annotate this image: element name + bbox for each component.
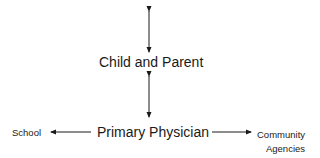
node-child-and-parent: Child and Parent [99, 55, 203, 69]
node-primary-physician: Primary Physician [97, 125, 209, 139]
referral-diagram: Child and Parent Primary Physician Schoo… [0, 0, 320, 158]
node-school: School [12, 128, 41, 138]
community-line-2: Agencies [257, 142, 305, 156]
node-community-agencies: Community Agencies [257, 128, 305, 156]
community-line-1: Community [257, 128, 305, 142]
